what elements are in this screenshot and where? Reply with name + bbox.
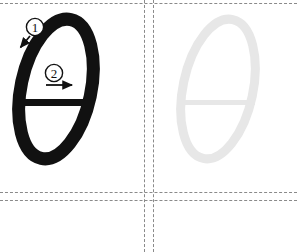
guide-rule-horizontal-mid-a bbox=[0, 192, 297, 193]
theta-glyph-model bbox=[0, 3, 144, 192]
letter-cell-trace[interactable] bbox=[153, 3, 297, 192]
guide-rule-horizontal-mid-b bbox=[0, 200, 297, 201]
handwriting-worksheet: 1 2 bbox=[0, 0, 297, 252]
letter-cell-model[interactable]: 1 2 bbox=[0, 3, 144, 192]
guide-rule-vertical-left bbox=[144, 0, 145, 252]
theta-glyph-trace bbox=[153, 3, 297, 192]
